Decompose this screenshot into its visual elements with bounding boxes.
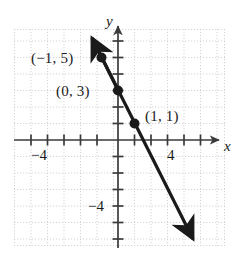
y-axis bbox=[113, 26, 124, 248]
x-tick-label-minus4: −4 bbox=[31, 147, 47, 164]
point-marker bbox=[113, 86, 123, 96]
x-axis-label: x bbox=[224, 138, 231, 155]
y-axis-label: y bbox=[106, 13, 113, 30]
point-label-0-3: (0, 3) bbox=[56, 83, 90, 100]
point-label-minus1-5: (−1, 5) bbox=[31, 50, 73, 67]
plotted-line bbox=[92, 38, 193, 239]
point-marker bbox=[97, 53, 107, 63]
y-tick-label-minus4: −4 bbox=[88, 198, 104, 215]
x-axis bbox=[14, 135, 219, 146]
coordinate-plane-svg bbox=[0, 0, 246, 257]
point-label-1-1: (1, 1) bbox=[145, 108, 179, 125]
graph-figure: (−1, 5) (0, 3) (1, 1) −4 4 −4 x y bbox=[0, 0, 246, 257]
x-tick-label-4: 4 bbox=[167, 147, 175, 164]
point-marker bbox=[130, 119, 140, 129]
